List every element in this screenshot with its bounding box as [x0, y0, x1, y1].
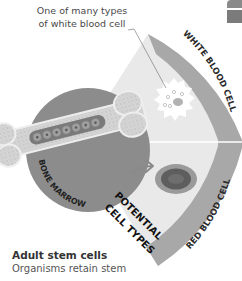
white-blood-cell-caption: One of many types of white blood cell [22, 4, 142, 30]
caption-line-2: of white blood cell [22, 17, 142, 30]
stem-cell-diagram: WHITE BLOOD CELL RED BLOOD CELL [0, 0, 242, 281]
body-paragraph-line: Organisms retain stem [12, 262, 212, 276]
section-tab-marker [227, 0, 242, 23]
caption-line-1: One of many types [22, 4, 142, 17]
tab-marker-top [227, 0, 242, 8]
section-heading: Adult stem cells [12, 248, 212, 262]
red-blood-cell-icon [155, 164, 197, 194]
tab-marker-bottom [227, 10, 242, 23]
body-text: Adult stem cells Organisms retain stem [12, 248, 212, 276]
